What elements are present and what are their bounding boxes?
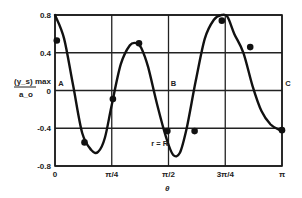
data-point-marker xyxy=(164,128,171,135)
data-point-marker xyxy=(110,96,117,103)
series-line xyxy=(55,15,280,157)
data-point-marker xyxy=(136,40,143,47)
x-tick-label: 3π/4 xyxy=(217,170,235,179)
annotation-label: A xyxy=(58,79,64,88)
data-point-marker xyxy=(54,37,61,44)
x-tick-label: π xyxy=(279,170,285,179)
annotation-label: C xyxy=(285,79,291,88)
annotations: ABCr = R xyxy=(58,79,291,148)
y-tick-label: 0 xyxy=(47,87,52,96)
data-point-marker xyxy=(219,17,226,24)
y-tick-label: -0.4 xyxy=(37,124,51,133)
data-point-marker xyxy=(81,139,88,146)
data-point-marker xyxy=(191,128,198,135)
data-point-marker xyxy=(247,44,254,51)
x-tick-labels: 0π/4π/23π/4π xyxy=(53,170,285,179)
y-tick-label: 0.4 xyxy=(40,49,52,58)
x-tick-label: π/4 xyxy=(105,170,118,179)
y-tick-label: -0.8 xyxy=(37,162,51,171)
x-tick-label: π/2 xyxy=(162,170,175,179)
annotation-label: r = R xyxy=(151,139,168,148)
y-axis-label-numerator: (y_s) max xyxy=(14,77,51,86)
chart: 0.80.40-0.4-0.8 0π/4π/23π/4π ABCr = R (y… xyxy=(0,0,302,198)
data-point-marker xyxy=(279,127,286,134)
y-tick-labels: 0.80.40-0.4-0.8 xyxy=(37,11,51,171)
annotation-label: B xyxy=(171,79,177,88)
y-tick-label: 0.8 xyxy=(40,11,52,20)
y-axis-label-denominator: a_o xyxy=(19,90,33,99)
x-tick-label: 0 xyxy=(53,170,58,179)
x-axis-label: θ xyxy=(165,184,170,193)
